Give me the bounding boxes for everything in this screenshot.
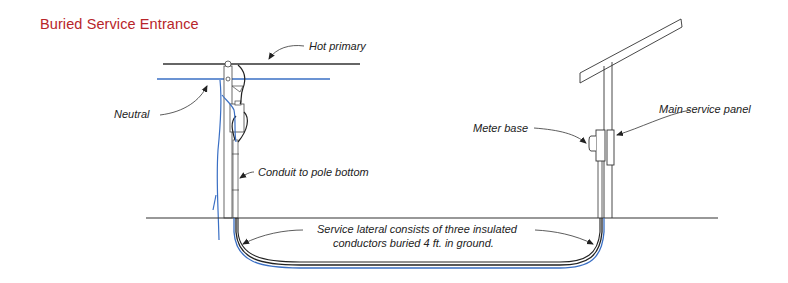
label-main-service-panel: Main service panel <box>659 103 751 115</box>
label-conduit: Conduit to pole bottom <box>258 166 369 178</box>
house <box>580 19 682 218</box>
service-entrance-diagram: Hot primary Neutral Conduit to pole bott… <box>0 0 788 283</box>
label-meter-base: Meter base <box>473 122 528 134</box>
label-lateral-line2: conductors buried 4 ft. in ground. <box>333 237 494 249</box>
label-neutral: Neutral <box>114 108 150 120</box>
meter-base <box>596 130 605 161</box>
label-hot-primary: Hot primary <box>309 40 367 52</box>
utility-pole <box>213 61 247 240</box>
label-lateral-line1: Service lateral consists of three insula… <box>317 223 518 235</box>
main-service-panel <box>607 130 614 165</box>
